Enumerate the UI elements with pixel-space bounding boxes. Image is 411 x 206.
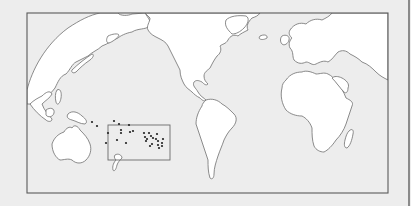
- data-point-dot: [161, 145, 163, 147]
- data-point-dot: [144, 136, 146, 138]
- data-point-dot: [116, 139, 118, 141]
- data-point-dot: [125, 142, 127, 144]
- data-point-dot: [162, 138, 164, 140]
- data-point-dot: [156, 133, 158, 135]
- data-point-dot: [96, 125, 98, 127]
- data-point-dot: [91, 121, 93, 123]
- landmass-europe: [289, 13, 388, 80]
- data-point-dot: [129, 131, 131, 133]
- data-point-dot: [118, 123, 120, 125]
- data-point-dot: [146, 138, 148, 140]
- landmass-british-isles: [281, 35, 290, 45]
- data-point-dot: [120, 132, 122, 134]
- landmass-philippines: [55, 89, 61, 104]
- data-point-dot: [158, 147, 160, 149]
- landmass-new-zealand: [113, 154, 122, 171]
- data-point-dot: [151, 143, 153, 145]
- data-point-dot: [128, 124, 130, 126]
- data-point-dot: [143, 132, 145, 134]
- data-point-dot: [148, 132, 150, 134]
- landmass-madagascar: [344, 130, 353, 148]
- data-point-dot: [113, 120, 115, 122]
- data-point-dot: [150, 135, 152, 137]
- landmass-south-america: [196, 99, 236, 179]
- world-map: [0, 0, 411, 206]
- data-point-dot: [132, 130, 134, 132]
- data-point-dot: [149, 145, 151, 147]
- data-points-layer: [91, 120, 164, 149]
- data-point-dot: [145, 140, 147, 142]
- data-point-dot: [152, 137, 154, 139]
- data-point-dot: [161, 142, 163, 144]
- data-point-dot: [107, 132, 109, 134]
- data-point-dot: [155, 138, 157, 140]
- data-point-dot: [120, 129, 122, 131]
- data-point-dot: [157, 144, 159, 146]
- landmass-iceland: [259, 35, 267, 40]
- landmass-new-guinea: [67, 112, 86, 124]
- data-point-dot: [105, 142, 107, 144]
- data-point-dot: [157, 140, 159, 142]
- landmass-borneo: [46, 108, 54, 116]
- landmass-australia: [52, 126, 91, 163]
